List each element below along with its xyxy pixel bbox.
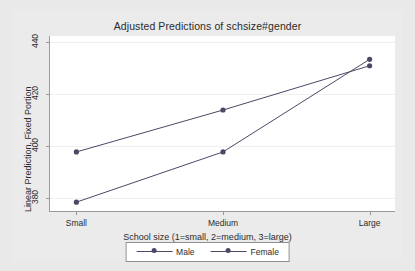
y-axis-tick-label: 380 — [30, 186, 40, 208]
y-axis-tick-label: 440 — [30, 30, 40, 52]
chart-legend: MaleFemale — [125, 242, 290, 262]
plot-area: 380400420440SmallMediumLarge — [49, 36, 395, 212]
legend-label: Female — [251, 247, 279, 257]
legend-entry-male[interactable]: Male — [136, 247, 194, 257]
data-point-female — [74, 200, 79, 205]
series-layer — [50, 36, 396, 212]
data-point-male — [220, 107, 225, 112]
y-axis-tick-label: 420 — [30, 82, 40, 104]
x-axis-tick-label: Small — [66, 218, 87, 228]
series-line-female — [76, 59, 369, 202]
y-axis-tick-label: 400 — [30, 134, 40, 156]
x-axis-tick-label: Large — [359, 218, 381, 228]
legend-entry-female[interactable]: Female — [211, 247, 279, 257]
chart-screenshot: Adjusted Predictions of schsize#gender L… — [0, 0, 415, 271]
plot-outer: Adjusted Predictions of schsize#gender L… — [13, 10, 402, 260]
graph-region: Adjusted Predictions of schsize#gender L… — [13, 10, 402, 260]
data-point-female — [367, 57, 372, 62]
data-point-male — [74, 149, 79, 154]
legend-marker-icon — [226, 248, 231, 253]
legend-key-male — [136, 247, 172, 256]
legend-key-female — [211, 247, 247, 256]
data-point-female — [220, 149, 225, 154]
legend-label: Male — [176, 247, 194, 257]
legend-marker-icon — [151, 248, 156, 253]
x-axis-title: School size (1=small, 2=medium, 3=large) — [13, 232, 402, 242]
x-axis-tick-label: Medium — [208, 218, 238, 228]
chart-title: Adjusted Predictions of schsize#gender — [13, 20, 402, 32]
data-point-male — [367, 63, 372, 68]
plot-inner: 380400420440SmallMediumLarge — [50, 36, 395, 211]
